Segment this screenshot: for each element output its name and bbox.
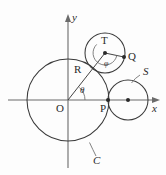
- y-axis-label: y: [72, 12, 77, 23]
- point-label-T: T: [101, 35, 108, 46]
- y-axis-arrowhead: [65, 14, 71, 22]
- point-dot-P: [106, 98, 110, 102]
- point-dot-Q: [122, 55, 126, 59]
- angle-label-phi: φ: [104, 60, 108, 68]
- point-dot-S-center: [126, 98, 130, 102]
- segment-TQ: [105, 53, 124, 57]
- circle-label-C: C: [93, 155, 100, 166]
- angle-label-theta: θ: [80, 86, 84, 95]
- geometry-figure: y x O P R T Q S C θ φ: [0, 0, 166, 175]
- point-label-P: P: [100, 103, 106, 114]
- point-label-R: R: [74, 64, 81, 75]
- point-label-Q: Q: [128, 51, 136, 62]
- circle-label-S: S: [143, 66, 149, 77]
- point-dot-T: [103, 51, 107, 55]
- point-label-O: O: [56, 103, 64, 114]
- x-axis-label: x: [152, 103, 157, 114]
